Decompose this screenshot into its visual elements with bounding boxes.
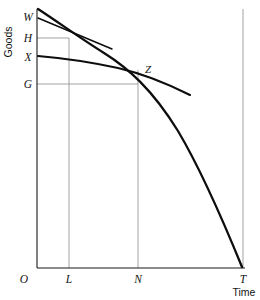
y-tick-label-X: X — [23, 51, 32, 63]
chart-svg: W H X G O L N T Z Goods Time — [0, 0, 260, 300]
x-tick-label-N: N — [133, 273, 143, 285]
x-axis-title: Time — [233, 286, 256, 298]
x-tick-label-L: L — [65, 273, 72, 285]
y-tick-label-W: W — [23, 11, 34, 23]
x-tick-label-T: T — [240, 273, 248, 285]
x-tick-label-O: O — [20, 273, 29, 285]
y-tick-label-H: H — [23, 32, 33, 44]
series-tangent-line — [38, 18, 112, 49]
annotation-label-Z: Z — [145, 63, 152, 75]
chart-figure: W H X G O L N T Z Goods Time — [0, 0, 260, 300]
series-secondary-curve — [38, 56, 190, 95]
y-axis-title: Goods — [2, 27, 14, 58]
y-tick-label-G: G — [24, 78, 33, 90]
